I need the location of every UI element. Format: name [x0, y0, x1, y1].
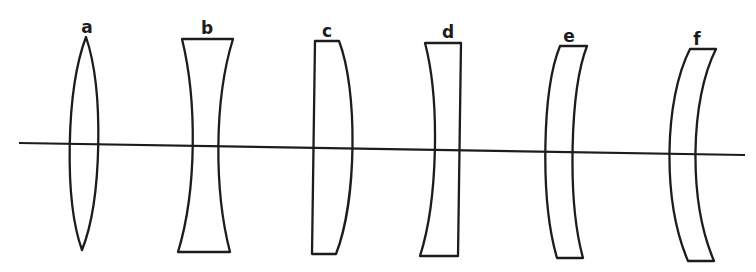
- lens-diagram: a b c d e f: [0, 0, 756, 272]
- lens-d: d: [420, 22, 461, 256]
- lens-a: a: [70, 17, 99, 250]
- lens-f: f: [669, 29, 716, 261]
- optical-axis: [19, 143, 745, 155]
- lens-e: e: [545, 26, 587, 258]
- lens-b: b: [178, 18, 233, 252]
- lens-b-label: b: [201, 18, 213, 38]
- lens-f-label: f: [693, 29, 701, 49]
- lens-a-label: a: [81, 17, 92, 37]
- lens-c: c: [312, 21, 353, 254]
- lens-c-label: c: [322, 21, 332, 41]
- lens-d-label: d: [442, 22, 454, 42]
- lens-e-label: e: [563, 26, 575, 46]
